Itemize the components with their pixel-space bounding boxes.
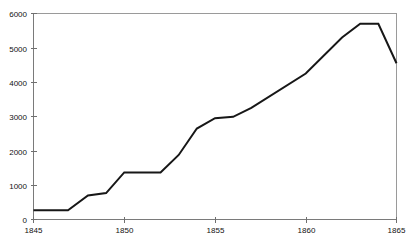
chart-canvas: 0 1000 2000 3000 4000 5000 6000 1845 185… <box>0 0 420 250</box>
y-tick-label-3000: 3000 <box>9 113 27 122</box>
x-axis-tick-labels: 1845 1850 1855 1860 1865 <box>25 226 406 235</box>
y-tick-label-1000: 1000 <box>9 182 27 191</box>
x-tick-label-1845: 1845 <box>25 226 43 235</box>
x-tick-label-1865: 1865 <box>388 226 406 235</box>
axis-lines <box>34 14 397 220</box>
y-tick-label-0: 0 <box>23 216 28 225</box>
x-tick-label-1855: 1855 <box>207 226 225 235</box>
data-series-line <box>34 24 397 210</box>
plot-frame <box>34 14 397 220</box>
y-tick-label-4000: 4000 <box>9 79 27 88</box>
y-tick-label-5000: 5000 <box>9 45 27 54</box>
x-tick-label-1860: 1860 <box>298 226 316 235</box>
x-tick-label-1850: 1850 <box>116 226 134 235</box>
y-axis-tick-labels: 0 1000 2000 3000 4000 5000 6000 <box>9 10 27 225</box>
y-tick-label-6000: 6000 <box>9 10 27 19</box>
y-tick-label-2000: 2000 <box>9 148 27 157</box>
line-chart: 0 1000 2000 3000 4000 5000 6000 1845 185… <box>0 0 420 250</box>
